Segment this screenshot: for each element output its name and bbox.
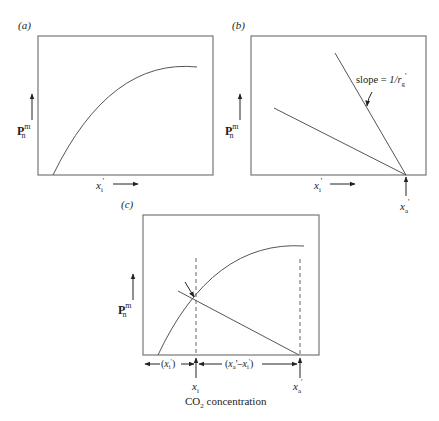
panel-b-x-label: xi' — [313, 177, 323, 194]
intersection-pointer-arrow-icon — [185, 282, 194, 297]
panel-c-frame — [143, 215, 319, 355]
diagram-canvas: (a) Pmn xi' (b) slope = 1/rg' Pmn xi' xa… — [0, 0, 439, 421]
panel-c-label: (c) — [121, 198, 134, 211]
panel-a-x-label: xi' — [95, 177, 105, 194]
panel-c: (c) Pmn (xi') (xa'–xi') xi xa' CO2 conce… — [118, 198, 319, 410]
xi-label: xi — [191, 380, 199, 395]
slope-annotation: slope = 1/rg' — [356, 72, 407, 88]
panel-b-xa-label: xa' — [399, 198, 410, 215]
panel-a-curve — [53, 66, 197, 175]
slope-pointer-arrow-icon — [367, 92, 372, 106]
panel-c-curve — [158, 246, 304, 355]
panel-a-label: (a) — [18, 19, 31, 32]
panel-c-y-label: Pmn — [118, 301, 132, 319]
dim-left-label: (xi') — [161, 357, 175, 370]
panel-b-y-label: Pmn — [225, 122, 239, 140]
panel-b: (b) slope = 1/rg' Pmn xi' xa' — [225, 19, 426, 215]
panel-b-label: (b) — [232, 19, 245, 32]
xa-label: xa' — [292, 378, 303, 395]
dim-right-label: (xa'–xi') — [225, 357, 253, 370]
panel-a: (a) Pmn xi' — [17, 19, 213, 194]
panel-b-frame — [251, 36, 426, 175]
x-axis-title: CO2 concentration — [185, 395, 267, 410]
panel-a-y-label: Pmn — [17, 122, 31, 140]
